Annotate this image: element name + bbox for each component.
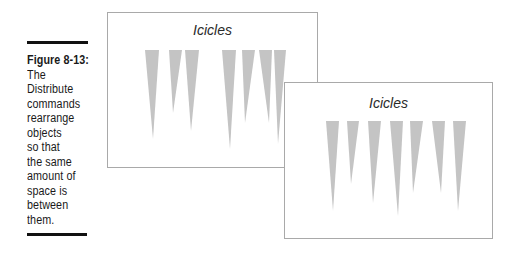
- caption-top-rule: [27, 41, 88, 44]
- caption-line: so that: [27, 140, 96, 155]
- icicle-shape: [390, 121, 403, 216]
- caption-line: rearrange: [27, 111, 96, 126]
- slide-after-distribute: Icicles: [284, 82, 493, 239]
- icicle-shape: [368, 121, 381, 203]
- caption-line: Distribute: [27, 82, 96, 97]
- figure-caption: Figure 8-13: The Distribute commands rea…: [27, 41, 89, 228]
- caption-line: amount of: [27, 169, 96, 184]
- icicle-shape: [169, 50, 182, 113]
- icicle-shape: [410, 121, 423, 193]
- icicle-shape: [432, 121, 445, 193]
- icicle-shape: [185, 50, 199, 131]
- icicle-shape: [242, 50, 255, 123]
- caption-line: objects: [27, 126, 96, 141]
- caption-text: Figure 8-13: The Distribute commands rea…: [27, 53, 96, 228]
- caption-bottom-rule: [27, 233, 87, 236]
- icicle-shape: [222, 50, 236, 149]
- caption-line: The: [27, 68, 96, 83]
- caption-line: commands: [27, 97, 96, 112]
- icicle-shape: [326, 121, 339, 211]
- icicle-shape: [347, 121, 359, 184]
- caption-line: between: [27, 198, 96, 213]
- icicle-shape: [453, 121, 466, 211]
- caption-line: them.: [27, 213, 96, 228]
- figure-label: Figure 8-13:: [27, 53, 96, 68]
- icicle-shape: [259, 50, 272, 123]
- icicle-shape: [145, 50, 159, 139]
- caption-line: the same: [27, 155, 96, 170]
- icicle-shapes: [285, 83, 494, 240]
- caption-line: space is: [27, 184, 96, 199]
